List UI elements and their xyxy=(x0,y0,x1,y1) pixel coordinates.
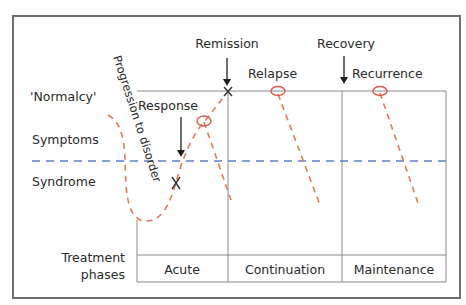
treatment-label-line2: phases xyxy=(81,267,125,282)
response-arrow xyxy=(177,117,185,157)
phase-acute: Acute xyxy=(164,262,200,277)
level-normalcy: 'Normalcy' xyxy=(30,89,96,104)
progression-to-disorder-label: Progression to disorder xyxy=(110,54,164,185)
recovery-arrow xyxy=(340,56,348,84)
treatment-label-line1: Treatment xyxy=(60,250,125,265)
event-remission: Remission xyxy=(195,36,259,51)
phase-grid xyxy=(137,91,446,282)
treatment-phases-diagram: 'Normalcy' Symptoms Syndrome Treatment p… xyxy=(0,0,466,305)
relapse-line xyxy=(278,94,320,205)
event-relapse: Relapse xyxy=(248,66,297,81)
event-recurrence: Recurrence xyxy=(352,66,423,81)
recurrence-line xyxy=(380,93,418,203)
progression-course-curve xyxy=(108,94,226,221)
phase-maintenance: Maintenance xyxy=(354,262,435,277)
response-circle xyxy=(197,116,211,126)
syndrome-crossing-x-mark xyxy=(172,177,180,189)
level-symptoms: Symptoms xyxy=(32,132,99,147)
remission-arrow xyxy=(223,58,231,86)
level-syndrome: Syndrome xyxy=(32,174,96,189)
event-recovery: Recovery xyxy=(317,36,376,51)
phase-continuation: Continuation xyxy=(245,262,325,277)
event-response: Response xyxy=(138,98,198,113)
